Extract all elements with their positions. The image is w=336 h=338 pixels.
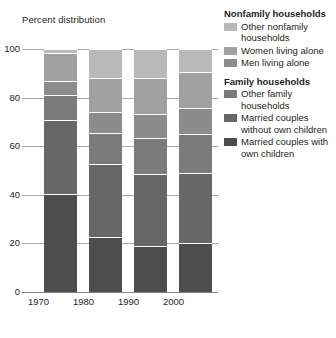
legend-item[interactable]: Married couples with own children <box>224 136 334 159</box>
bar-segment[interactable] <box>44 95 77 121</box>
bar-segment[interactable] <box>44 53 77 81</box>
bar-segment[interactable] <box>179 243 212 292</box>
bar-segment[interactable] <box>44 194 77 292</box>
bar-segment[interactable] <box>89 133 122 164</box>
bar-segment[interactable] <box>44 120 77 194</box>
bar-segment[interactable] <box>179 173 212 243</box>
chart-legend: Nonfamily householdsOther nonfamily hous… <box>224 8 334 160</box>
bar-segment[interactable] <box>44 81 77 95</box>
legend-swatch-icon <box>224 59 237 67</box>
y-axis-tick-labels: 020406080100 <box>0 0 20 338</box>
legend-item-label: Other nonfamily households <box>241 21 334 44</box>
legend-swatch-icon <box>224 114 237 122</box>
y-axis-tick-label: 100 <box>4 44 20 54</box>
chart-panel: Percent distribution 020406080100 197019… <box>0 0 222 338</box>
legend-item-label: Other family households <box>241 88 334 111</box>
bar-segment[interactable] <box>89 237 122 292</box>
legend-item[interactable]: Men living alone <box>224 57 334 69</box>
x-axis-tick-label: 2000 <box>150 296 198 307</box>
bar-1990[interactable] <box>134 49 167 292</box>
bar-1970[interactable] <box>44 49 77 292</box>
plot-area <box>22 49 218 292</box>
bar-segment[interactable] <box>134 246 167 292</box>
legend-item[interactable]: Women living alone <box>224 45 334 57</box>
legend-swatch-icon <box>224 138 237 146</box>
chart-axis-note: Percent distribution <box>22 14 105 25</box>
bar-segment[interactable] <box>89 164 122 237</box>
y-axis-tick-label: 40 <box>9 190 20 200</box>
bar-segment[interactable] <box>134 78 167 114</box>
legend-item[interactable]: Married couples without own children <box>224 112 334 135</box>
legend-item[interactable]: Other nonfamily households <box>224 21 334 44</box>
legend-item-label: Men living alone <box>241 57 310 69</box>
bar-segment[interactable] <box>44 49 77 53</box>
legend-swatch-icon <box>224 90 237 98</box>
legend-group-heading: Family households <box>224 76 334 88</box>
bar-1980[interactable] <box>89 49 122 292</box>
legend-swatch-icon <box>224 47 237 55</box>
legend-swatch-icon <box>224 23 237 31</box>
x-axis-tick-label: 1970 <box>15 296 63 307</box>
y-axis-tick-label: 80 <box>9 93 20 103</box>
bar-segment[interactable] <box>89 49 122 78</box>
bar-segment[interactable] <box>134 138 167 174</box>
bar-segment[interactable] <box>89 112 122 133</box>
y-axis-tick-label: 60 <box>9 141 20 151</box>
bar-segment[interactable] <box>179 134 212 173</box>
legend-item[interactable]: Other family households <box>224 88 334 111</box>
x-axis-baseline <box>22 292 218 293</box>
bar-segment[interactable] <box>134 114 167 138</box>
x-axis-tick-label: 1980 <box>60 296 108 307</box>
legend-item-label: Women living alone <box>241 45 324 57</box>
bar-segment[interactable] <box>134 49 167 78</box>
legend-group-heading: Nonfamily households <box>224 8 334 20</box>
bar-segment[interactable] <box>89 78 122 112</box>
y-axis-tick-label: 20 <box>9 238 20 248</box>
bar-segment[interactable] <box>179 49 212 72</box>
bar-segment[interactable] <box>179 72 212 108</box>
stacked-bar-chart-figure: Percent distribution 020406080100 197019… <box>0 0 336 338</box>
bar-2000[interactable] <box>179 49 212 292</box>
bar-segment[interactable] <box>179 108 212 134</box>
legend-item-label: Married couples with own children <box>241 136 334 159</box>
x-axis-tick-label: 1990 <box>105 296 153 307</box>
bar-segment[interactable] <box>134 174 167 246</box>
legend-item-label: Married couples without own children <box>241 112 334 135</box>
